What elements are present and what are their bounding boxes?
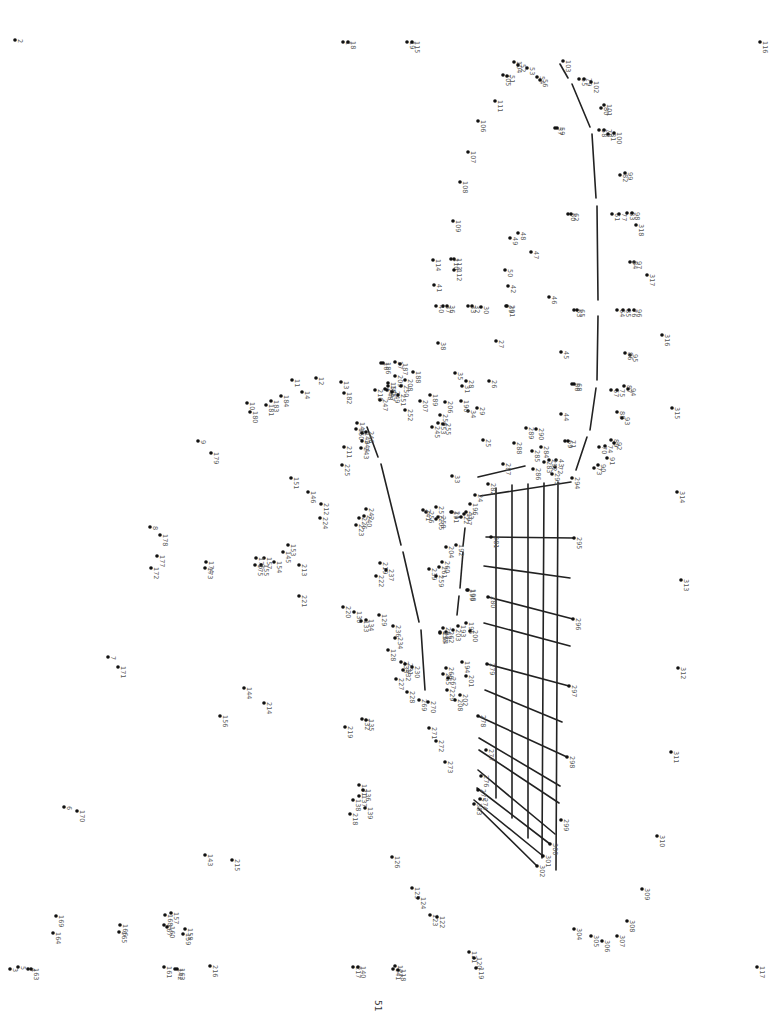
dot-label: 177 — [158, 555, 166, 567]
dot-181: 181 — [264, 403, 275, 416]
dot-label: 219 — [346, 726, 354, 738]
dot-label: 35 — [456, 372, 464, 380]
dot-label: 14 — [303, 391, 311, 399]
dot-316: 316 — [660, 333, 671, 346]
dot-306: 306 — [600, 939, 611, 952]
dot-label: 221 — [300, 595, 308, 607]
dot-label: 45 — [562, 351, 570, 359]
dot-24: 24 — [473, 493, 484, 502]
dot-129: 129 — [377, 613, 388, 626]
dot-label: 41 — [435, 284, 443, 292]
dot-259: 259 — [434, 574, 445, 587]
dot-label: 165 — [120, 931, 128, 943]
dot-143: 143 — [203, 853, 214, 866]
dot-label: 284 — [542, 446, 550, 458]
dot-label: 228 — [408, 691, 416, 703]
dot-label: 111 — [496, 100, 504, 112]
dot-300: 300 — [548, 842, 559, 855]
dot-label: 208 — [456, 699, 464, 711]
dot-49: 49 — [508, 236, 519, 245]
guide-line — [597, 206, 598, 300]
dot-133: 133 — [359, 619, 370, 632]
dot-9: 9 — [196, 439, 207, 444]
dot-label: 239 — [430, 568, 438, 580]
dot-label: 59 — [558, 127, 566, 135]
dot-310: 310 — [655, 834, 666, 847]
dot-224: 224 — [318, 516, 329, 529]
dot-label: 62 — [572, 213, 580, 221]
dot-170: 170 — [75, 809, 86, 822]
dot-label: 44 — [562, 413, 570, 421]
page-number: 51 — [373, 1000, 383, 1011]
dot-label: 18 — [349, 41, 357, 49]
dot-label: 114 — [434, 259, 442, 271]
guide-line — [460, 552, 463, 588]
dot-252: 252 — [403, 408, 414, 421]
dot-11: 11 — [290, 378, 301, 387]
dot-114: 114 — [431, 258, 442, 271]
dot-124: 124 — [416, 896, 427, 909]
dot-label: 56 — [541, 79, 549, 87]
dot-228: 228 — [405, 690, 416, 703]
dot-label: 207 — [421, 400, 429, 412]
dot-label: 251 — [399, 394, 407, 406]
dot-291: 291 — [505, 304, 516, 317]
dot-27: 27 — [494, 339, 505, 348]
dot-label: 204 — [447, 546, 455, 558]
guide-line — [478, 466, 525, 477]
dot-label: 255 — [444, 423, 452, 435]
dot-label: 212 — [322, 503, 330, 515]
dot-218: 218 — [348, 812, 359, 825]
dot-label: 108 — [461, 181, 469, 193]
dot-label: 315 — [673, 407, 681, 419]
dot-label: 237 — [387, 569, 395, 581]
dot-label: 146 — [309, 491, 317, 503]
dot-label: 304 — [575, 928, 583, 940]
dot-295: 295 — [572, 536, 583, 549]
dot-126: 126 — [390, 855, 401, 868]
dot-label: 5 — [19, 966, 27, 970]
dot-label: 307 — [618, 935, 626, 947]
dot-label: 169 — [57, 915, 65, 927]
dot-label: 236 — [394, 625, 402, 637]
dot-35: 35 — [453, 371, 464, 380]
dot-314: 314 — [675, 490, 686, 503]
dot-label: 103 — [564, 60, 572, 72]
dot-label: 126 — [393, 856, 401, 868]
dot-305: 305 — [589, 934, 600, 947]
dot-175: 175 — [253, 563, 264, 576]
dot-label: 124 — [419, 897, 427, 909]
dot-label: 65 — [578, 309, 586, 317]
dot-309: 309 — [640, 887, 651, 900]
dot-282: 282 — [486, 482, 497, 495]
dot-label: 196 — [471, 503, 479, 515]
dot-318: 318 — [634, 223, 645, 236]
dot-80: 80 — [599, 106, 610, 115]
dot-label: 314 — [678, 491, 686, 503]
dot-119: 119 — [474, 966, 485, 979]
guide-line — [421, 630, 425, 690]
dot-label: 84 — [631, 261, 639, 269]
dot-161: 161 — [162, 965, 173, 978]
dot-label: 47 — [532, 251, 540, 259]
dot-label: 306 — [603, 940, 611, 952]
dot-label: 316 — [663, 334, 671, 346]
dot-label: 50 — [506, 269, 514, 277]
dot-label: 139 — [366, 807, 374, 819]
dot-14: 14 — [300, 390, 311, 399]
dot-286: 286 — [531, 467, 542, 480]
dot-label: 286 — [534, 468, 542, 480]
guide-line — [572, 84, 590, 127]
dot-144: 144 — [242, 686, 253, 699]
dot-label: 119 — [477, 967, 485, 979]
dot-label: 223 — [357, 524, 365, 536]
dot-label: 248 — [386, 388, 394, 400]
dot-label: 290 — [537, 428, 545, 440]
dot-236: 236 — [391, 624, 402, 637]
dot-169: 169 — [54, 914, 65, 927]
dot-216: 216 — [208, 964, 219, 977]
dot-2: 2 — [13, 38, 24, 43]
dot-273: 273 — [443, 760, 454, 773]
dot-label: 293 — [553, 473, 561, 485]
dot-label: 51 — [508, 75, 516, 83]
